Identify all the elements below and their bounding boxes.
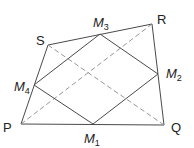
midpoint-label-m1: M1: [84, 131, 100, 148]
midpoint-label-m4: M4: [14, 79, 30, 96]
midpoint-parallelogram: [34, 34, 158, 124]
vertex-label-s: S: [36, 33, 45, 48]
vertex-label-q: Q: [171, 120, 181, 135]
vertex-label-p: P: [3, 120, 12, 135]
quadrilateral-diagram: P Q R S M1 M2 M3 M4: [0, 0, 194, 148]
vertex-label-r: R: [157, 12, 166, 27]
midpoint-label-m3: M3: [93, 15, 109, 32]
diagonal-sq: [48, 45, 164, 125]
midpoint-label-m2: M2: [166, 66, 182, 83]
